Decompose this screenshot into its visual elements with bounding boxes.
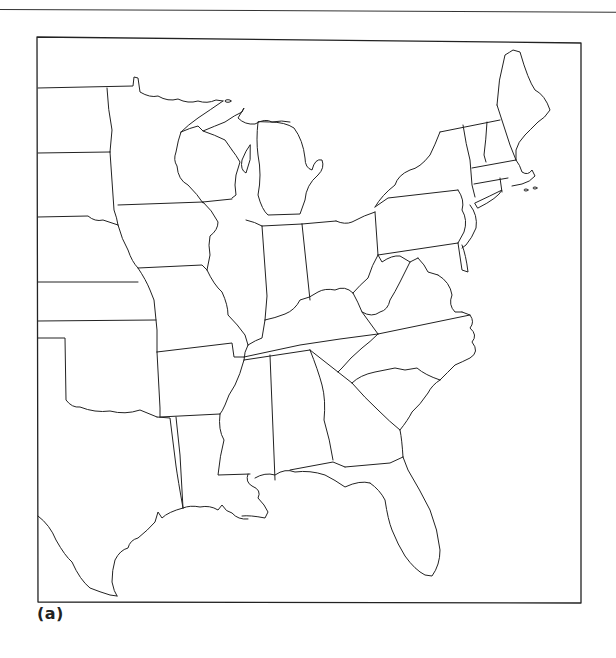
border-oh-mi bbox=[302, 221, 336, 224]
border-ia-il-river bbox=[203, 202, 218, 270]
border-ma-north bbox=[472, 160, 516, 168]
border-la-ms bbox=[218, 414, 250, 475]
border-mo-tn-ky-river bbox=[244, 345, 248, 360]
border-ga-fl bbox=[345, 457, 403, 467]
mn-lake-superior-shore bbox=[181, 101, 223, 132]
wi-lake-michigan-shore bbox=[232, 150, 240, 198]
border-nd-sd bbox=[38, 152, 110, 153]
texas-gulf-coast bbox=[183, 505, 248, 519]
border-ms-al bbox=[270, 355, 275, 480]
border-wi-il bbox=[203, 199, 232, 202]
border-sd-mn-ia bbox=[110, 152, 118, 225]
long-island bbox=[475, 190, 502, 208]
gulf-coast-ms-al-fl bbox=[255, 471, 370, 487]
border-mn-ia bbox=[118, 202, 203, 205]
border-nc-sc bbox=[352, 368, 440, 383]
border-mn-wi bbox=[175, 132, 203, 203]
nc-coast bbox=[440, 312, 476, 380]
border-ma-ct-ri bbox=[474, 178, 508, 184]
border-wv-md bbox=[378, 255, 410, 262]
florida-peninsula bbox=[370, 457, 440, 576]
border-ar-ms-river bbox=[220, 360, 244, 414]
border-ia-ne bbox=[118, 225, 138, 268]
border-nd-mn bbox=[107, 88, 112, 152]
border-ks-ok bbox=[38, 320, 156, 321]
figure-caption: (a) bbox=[37, 604, 64, 623]
border-il-ky bbox=[248, 320, 265, 345]
la-delta bbox=[242, 474, 268, 518]
border-sd-ne bbox=[38, 216, 118, 225]
chesapeake-bay bbox=[438, 275, 462, 312]
green-bay bbox=[242, 145, 251, 173]
border-il-in bbox=[262, 226, 267, 320]
nantucket bbox=[533, 187, 537, 189]
texas-coast-south bbox=[112, 508, 183, 596]
border-ga-sc bbox=[352, 383, 403, 457]
maine-coast bbox=[497, 50, 550, 160]
ga-sc-atlantic-coast bbox=[400, 380, 440, 430]
border-wi-mi-up bbox=[203, 131, 232, 150]
border-canada-mn bbox=[38, 77, 223, 102]
border-va-md-potomac bbox=[418, 258, 438, 275]
isle-royale bbox=[225, 100, 231, 103]
border-tn-nc bbox=[338, 334, 378, 372]
border-in-mi bbox=[262, 224, 302, 226]
border-tx-la bbox=[176, 417, 183, 508]
nj-coast bbox=[462, 205, 476, 248]
border-mo-ks bbox=[138, 268, 157, 352]
border-ok-tx-red-river bbox=[157, 417, 183, 508]
border-ny-vt-ma-ct bbox=[463, 125, 475, 197]
border-il-mo-river bbox=[207, 270, 248, 345]
border-ok-panhandle bbox=[38, 338, 157, 417]
border-pa-md bbox=[378, 243, 458, 255]
border-ar-la bbox=[160, 414, 220, 417]
border-oh-pa bbox=[375, 212, 378, 255]
border-al-fl bbox=[290, 462, 345, 470]
border-mo-ar bbox=[157, 343, 244, 357]
up-michigan-shore bbox=[181, 108, 290, 132]
border-ia-mo bbox=[138, 265, 207, 270]
border-ok-ar bbox=[157, 352, 160, 417]
border-in-oh bbox=[302, 224, 310, 300]
lake-erie-shore bbox=[336, 212, 375, 223]
border-al-ga bbox=[310, 350, 333, 460]
lake-michigan-west-shore bbox=[246, 220, 262, 226]
border-pa-nj bbox=[458, 190, 466, 243]
border-tx-mexico bbox=[38, 516, 117, 596]
border-oh-wv bbox=[353, 255, 378, 293]
border-ny-canada bbox=[440, 120, 500, 132]
border-nh-me bbox=[497, 105, 516, 160]
border-pa-ny bbox=[375, 190, 458, 207]
border-vt-nh bbox=[484, 122, 487, 162]
marthas-vineyard bbox=[524, 189, 528, 191]
lower-michigan bbox=[257, 122, 323, 215]
us-east-outline-map bbox=[0, 0, 616, 658]
border-wv-va bbox=[362, 258, 418, 315]
border-ct-ri bbox=[500, 178, 502, 192]
ma-coast bbox=[512, 160, 535, 186]
border-va-nc bbox=[378, 315, 470, 334]
